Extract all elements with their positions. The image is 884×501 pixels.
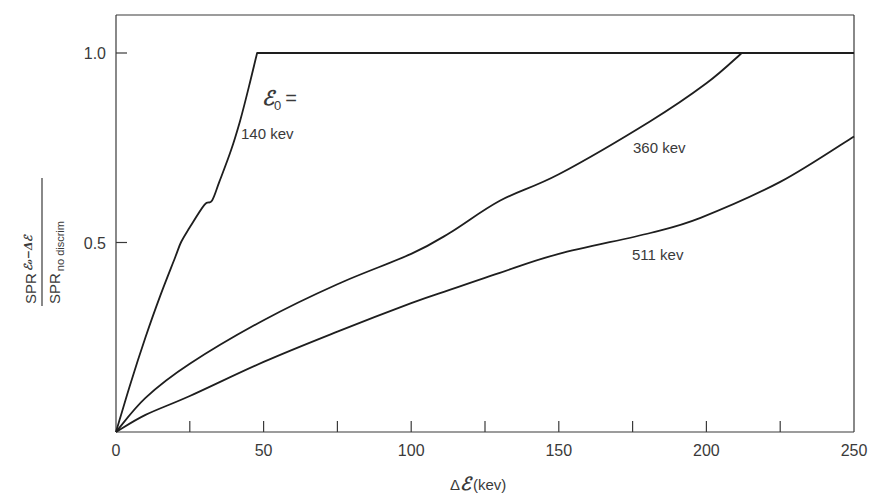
curve-140-kev bbox=[116, 53, 854, 432]
curve-360-kev bbox=[116, 53, 854, 432]
chart: 050100150200250 0.51.0 ℰ0= 140 kev 360 k… bbox=[0, 0, 884, 501]
y-ticks: 0.51.0 bbox=[84, 45, 127, 252]
x-tick-label: 200 bbox=[693, 442, 720, 459]
curves bbox=[116, 53, 854, 432]
x-tick-label: 150 bbox=[545, 442, 572, 459]
label-140-kev: 140 kev bbox=[241, 125, 294, 142]
y-axis-title: SPRℰ₀−Δℰ SPRno discrim bbox=[22, 178, 66, 306]
plot-frame bbox=[116, 15, 854, 432]
x-tick-label: 100 bbox=[398, 442, 425, 459]
x-tick-label: 250 bbox=[841, 442, 868, 459]
x-tick-label: 0 bbox=[112, 442, 121, 459]
curve-labels: ℰ0= 140 kev 360 kev 511 kev bbox=[241, 86, 686, 263]
y-title-numerator: SPRℰ₀−Δℰ bbox=[22, 234, 39, 304]
legend-header: ℰ0= bbox=[262, 86, 297, 113]
label-511-kev: 511 kev bbox=[632, 246, 684, 263]
x-axis-title: Δℰ(kev) bbox=[450, 473, 506, 494]
x-ticks: 050100150200250 bbox=[112, 421, 868, 459]
y-title-denominator: SPRno discrim bbox=[46, 221, 66, 304]
curve-511-kev bbox=[116, 136, 854, 432]
x-tick-label: 50 bbox=[255, 442, 273, 459]
y-tick-label: 0.5 bbox=[84, 235, 106, 252]
y-tick-label: 1.0 bbox=[84, 45, 106, 62]
label-360-kev: 360 kev bbox=[633, 139, 686, 156]
